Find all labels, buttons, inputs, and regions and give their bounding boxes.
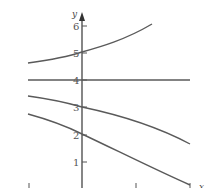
x-ticks — [29, 183, 190, 188]
chart-svg: y 6 5 4 3 2 1 x — [0, 0, 217, 188]
curve-lower — [28, 114, 190, 185]
y-tick-1: 1 — [73, 157, 79, 168]
y-tick-3: 3 — [73, 102, 79, 113]
curve-middle — [28, 96, 190, 144]
curve-upper — [28, 24, 152, 63]
y-tick-6: 6 — [73, 21, 79, 32]
y-axis-label: y — [71, 9, 78, 19]
y-axis-arrow-icon — [79, 12, 85, 21]
y-tick-labels: 6 5 4 3 2 1 — [73, 21, 79, 168]
y-ticks — [82, 26, 87, 162]
x-axis-label: x — [199, 182, 204, 188]
